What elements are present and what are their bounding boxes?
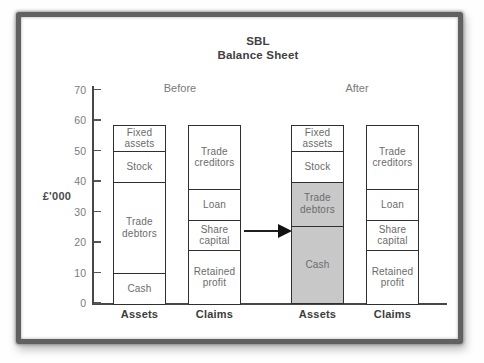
segment-before-assets-cash: Cash: [113, 273, 166, 305]
segment-after-claims-loan: Loan: [366, 189, 419, 221]
y-tick-label-0: 0: [58, 297, 86, 309]
group-label-after: After: [307, 82, 407, 94]
y-tick-20: [94, 241, 101, 243]
y-tick-label-10: 10: [58, 267, 86, 279]
segment-before-claims-retained-profit: Retained profit: [188, 250, 241, 305]
segment-after-assets-fixed-assets: Fixed assets: [291, 125, 344, 152]
segment-before-claims-loan: Loan: [188, 189, 241, 221]
y-tick-label-70: 70: [58, 84, 86, 96]
y-tick-label-50: 50: [58, 145, 86, 157]
segment-before-claims-trade-creditors: Trade creditors: [188, 125, 241, 191]
group-label-before: Before: [130, 82, 230, 94]
y-tick-10: [94, 272, 101, 274]
segment-before-assets-trade-debtors: Trade debtors: [113, 181, 166, 274]
y-tick-label-20: 20: [58, 236, 86, 248]
segment-after-claims-trade-creditors: Trade creditors: [366, 125, 419, 191]
before-after-arrow-icon: [278, 224, 292, 238]
segment-after-claims-retained-profit: Retained profit: [366, 250, 419, 305]
y-tick-40: [94, 180, 101, 182]
category-label-before-claims: Claims: [176, 308, 253, 320]
y-tick-50: [94, 150, 101, 152]
y-tick-label-40: 40: [58, 175, 86, 187]
y-tick-60: [94, 119, 101, 121]
segment-after-claims-share-capital: Share capital: [366, 219, 419, 251]
segment-after-assets-trade-debtors: Trade debtors: [291, 181, 344, 227]
segment-before-assets-stock: Stock: [113, 151, 166, 183]
y-tick-label-60: 60: [58, 114, 86, 126]
chart-title: SBL Balance Sheet: [98, 34, 418, 62]
y-tick-label-30: 30: [58, 206, 86, 218]
scanned-page: SBL Balance Sheet Before After £'000 010…: [0, 0, 484, 363]
y-tick-30: [94, 211, 101, 213]
chart-title-line1: SBL: [98, 34, 418, 48]
category-label-after-assets: Assets: [279, 308, 356, 320]
chart-title-line2: Balance Sheet: [98, 48, 418, 62]
category-label-after-claims: Claims: [354, 308, 431, 320]
segment-before-assets-fixed-assets: Fixed assets: [113, 125, 166, 152]
segment-after-assets-stock: Stock: [291, 151, 344, 183]
y-tick-0: [94, 302, 101, 304]
before-after-arrow-line: [244, 230, 280, 232]
y-axis-label: £'000: [34, 190, 80, 202]
segment-after-assets-cash: Cash: [291, 225, 344, 304]
category-label-before-assets: Assets: [101, 308, 178, 320]
segment-before-claims-share-capital: Share capital: [188, 219, 241, 251]
y-tick-70: [94, 89, 101, 91]
